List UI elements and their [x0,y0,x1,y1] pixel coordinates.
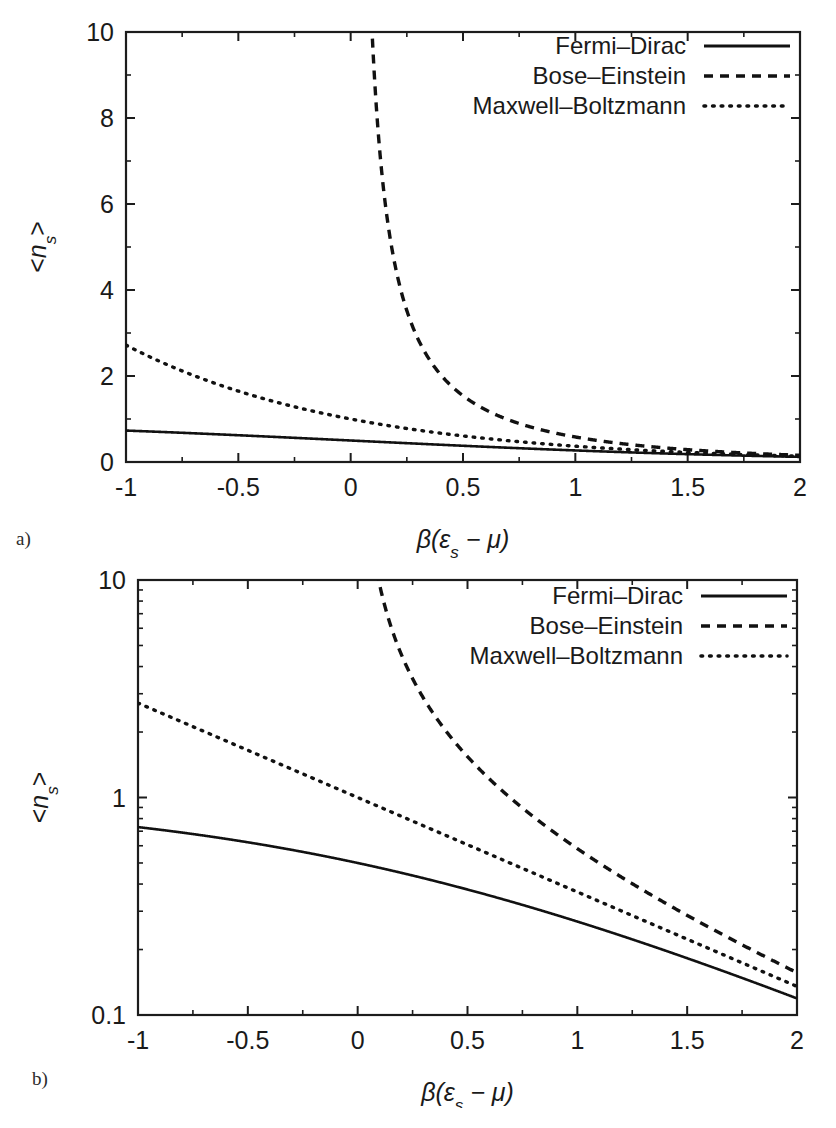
y-tick-label: 2 [100,362,114,390]
legend-label-dashed: Bose–Einstein [533,62,686,89]
x-tick-label: 2 [790,1026,804,1054]
legend-label-solid: Fermi–Dirac [552,582,683,609]
x-tick-label: 0.5 [450,1026,485,1054]
y-tick-label: 8 [100,104,114,132]
x-tick-label: 0 [344,473,358,501]
y-tick-label: 6 [100,190,114,218]
legend-label-dotted: Maxwell–Boltzmann [470,642,683,669]
x-tick-label: -0.5 [226,1026,269,1054]
plot-frame [138,580,797,1015]
plot-frame [126,32,800,462]
series-curve-dotted [126,345,800,456]
y-axis-title: <ns> [25,772,62,824]
y-tick-label: 4 [100,276,114,304]
x-tick-label: 1.5 [670,473,705,501]
series-curve-solid [138,827,797,998]
series-curve-dotted [138,703,797,986]
y-axis-title: <ns> [23,221,60,273]
y-tick-label: 10 [86,18,114,46]
x-tick-label: -0.5 [217,473,260,501]
chart-panel-a-linear: -1-0.500.511.520246810Fermi–DiracBose–Ei… [0,0,836,560]
x-tick-label: -1 [115,473,137,501]
y-tick-label: 10 [98,566,126,594]
legend-label-solid: Fermi–Dirac [555,32,686,59]
x-tick-label: -1 [127,1026,149,1054]
x-tick-label: 2 [793,473,807,501]
x-tick-label: 1.5 [670,1026,705,1054]
y-tick-label: 0 [100,448,114,476]
y-tick-label: 1 [112,784,126,812]
chart-panel-b-log: -1-0.500.511.520.1110Fermi–DiracBose–Ein… [0,548,836,1108]
y-tick-label: 0.1 [91,1001,126,1029]
legend-label-dotted: Maxwell–Boltzmann [473,92,686,119]
statistics-distribution-figure: a) b) -1-0.500.511.520246810Fermi–DiracB… [0,0,836,1128]
x-tick-label: 1 [568,473,582,501]
x-tick-label: 0.5 [446,473,481,501]
x-tick-label: 0 [351,1026,365,1054]
x-tick-label: 1 [570,1026,584,1054]
legend-label-dashed: Bose–Einstein [530,612,683,639]
x-axis-title: β(εs − μ) [420,1078,514,1108]
